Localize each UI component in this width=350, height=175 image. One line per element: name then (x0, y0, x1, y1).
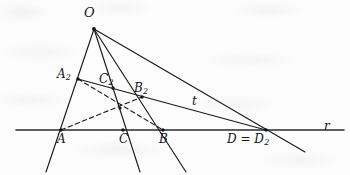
label-point-C: C (119, 133, 128, 145)
ray-O-through-A2-A (46, 29, 94, 172)
label-C2-subscript: 2 (108, 78, 113, 87)
line-t (78, 79, 266, 130)
label-point-B: B (159, 133, 168, 145)
ray-O-through-B2-B (94, 29, 186, 172)
dashed-A-B2 (61, 97, 142, 130)
label-point-B2: B2 (134, 82, 148, 94)
label-point-A: A (57, 133, 66, 145)
point-O (92, 27, 96, 31)
point-A2 (76, 77, 79, 80)
figure-canvas (0, 0, 350, 175)
label-D-subscript: 2 (264, 138, 269, 147)
label-point-A2: A2 (57, 68, 71, 80)
label-A2-base: A (57, 67, 66, 81)
dashed-A2-B (78, 79, 163, 130)
point-D (264, 128, 267, 131)
label-B2-base: B (134, 81, 143, 95)
label-point-C2: C2 (99, 73, 113, 85)
label-line-t: t (192, 95, 197, 107)
label-D-base: D = D (227, 132, 264, 146)
point-intersection (118, 106, 121, 109)
label-line-r: r (324, 120, 330, 132)
label-point-O: O (84, 6, 95, 19)
label-B2-subscript: 2 (143, 87, 148, 96)
label-A2-subscript: 2 (66, 73, 71, 82)
label-C2-base: C (99, 72, 108, 86)
label-point-D-equals-D2: D = D2 (227, 133, 269, 145)
geometry-figure: O A2 C2 B2 t A C B D = D2 r (0, 0, 350, 175)
